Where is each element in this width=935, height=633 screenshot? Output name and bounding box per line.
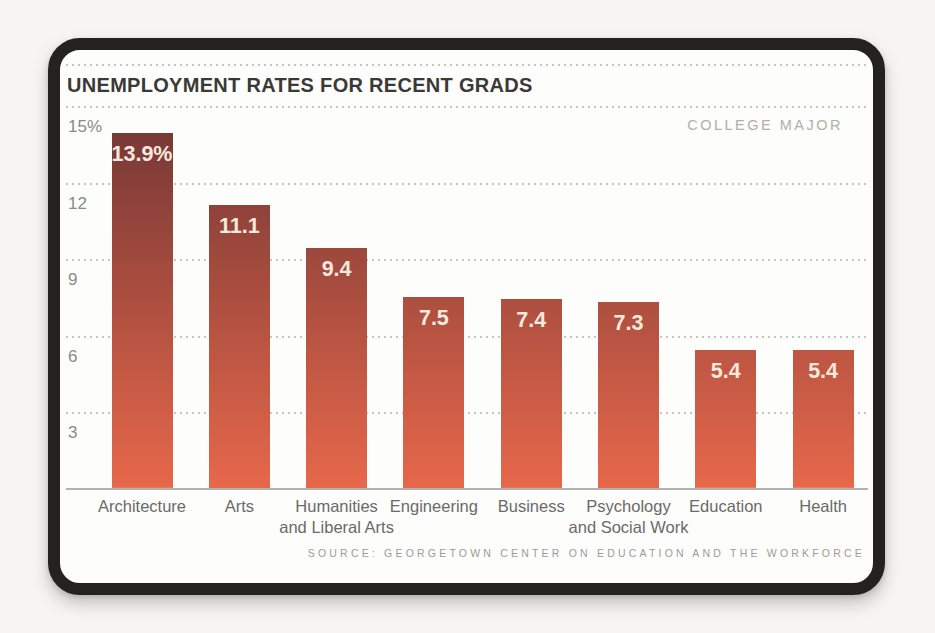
y-tick-label: 3 — [68, 423, 77, 443]
bar-architecture: 13.9% — [112, 133, 173, 488]
x-category-label: Health — [743, 496, 903, 517]
chart-card: UNEMPLOYMENT RATES FOR RECENT GRADS COLL… — [48, 38, 885, 595]
bar-value-label: 5.4 — [808, 350, 838, 384]
bar-value-label: 7.3 — [614, 302, 644, 336]
bar-arts: 11.1 — [209, 205, 270, 488]
gridline-6 — [66, 336, 868, 338]
bar-value-label: 13.9% — [112, 133, 173, 167]
gridline-9 — [66, 259, 868, 261]
chart-content: UNEMPLOYMENT RATES FOR RECENT GRADS COLL… — [60, 50, 873, 583]
bar-engineering: 7.5 — [403, 297, 464, 489]
x-category-label-line: and Social Work — [549, 517, 709, 538]
y-tick-label: 6 — [68, 347, 77, 367]
y-tick-label: 9 — [68, 270, 77, 290]
y-tick-label: 15% — [68, 117, 102, 137]
x-category-label-line: Health — [743, 496, 903, 517]
bar-value-label: 9.4 — [322, 248, 352, 282]
y-tick-label: 12 — [68, 194, 87, 214]
x-axis-baseline — [66, 488, 868, 490]
corner-label: COLLEGE MAJOR — [687, 117, 843, 133]
bar-humanities-and-liberal-arts: 9.4 — [306, 248, 367, 488]
bar-value-label: 7.5 — [419, 297, 449, 331]
bar-education: 5.4 — [695, 350, 756, 488]
bar-value-label: 7.4 — [516, 299, 546, 333]
plot-area: COLLEGE MAJOR 15%1296313.9%11.19.47.57.4… — [60, 106, 873, 489]
bar-business: 7.4 — [501, 299, 562, 488]
gridline-15 — [66, 106, 868, 108]
x-category-label-line: and Liberal Arts — [257, 517, 417, 538]
chart-title: UNEMPLOYMENT RATES FOR RECENT GRADS — [67, 74, 533, 97]
top-divider-rule — [66, 64, 868, 66]
bar-psychology-and-social-work: 7.3 — [598, 302, 659, 488]
source-note: SOURCE: GEORGETOWN CENTER ON EDUCATION A… — [308, 547, 865, 559]
gridline-12 — [66, 183, 868, 185]
bar-health: 5.4 — [793, 350, 854, 488]
bar-value-label: 5.4 — [711, 350, 741, 384]
bar-value-label: 11.1 — [219, 205, 260, 239]
